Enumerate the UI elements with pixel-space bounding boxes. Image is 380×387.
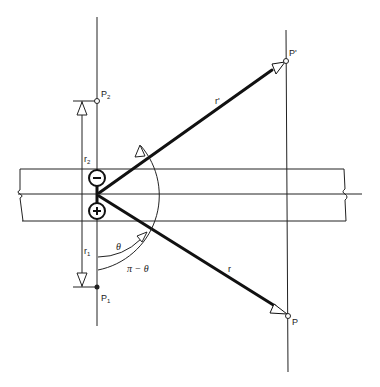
- label-r-prime: r': [215, 96, 220, 106]
- arc-pi-minus-theta: [98, 146, 159, 270]
- point-p2-marker: [95, 99, 100, 104]
- horizontal-band: [18, 169, 362, 221]
- label-p: P: [292, 317, 298, 327]
- dipole-diagram: P2 P1 P' P r' r r2 r1 θ π − θ: [0, 0, 380, 387]
- label-theta: θ: [116, 241, 121, 252]
- point-p-prime-marker: [284, 59, 289, 64]
- vector-r-prime: [99, 70, 272, 193]
- label-r2: r2: [84, 154, 91, 165]
- negative-charge: [89, 170, 105, 186]
- arrowhead-r-prime: [272, 62, 285, 74]
- label-p-prime: P': [289, 48, 297, 58]
- point-p1-marker: [95, 285, 100, 290]
- right-axis: [286, 30, 288, 372]
- point-p-marker: [286, 314, 291, 319]
- label-p1: P1: [101, 293, 111, 304]
- arrowhead-theta: [137, 232, 147, 242]
- label-pi-minus-theta: π − θ: [127, 263, 149, 274]
- label-r1: r1: [84, 246, 91, 257]
- positive-charge: [89, 203, 105, 219]
- label-r: r: [228, 264, 231, 274]
- label-p2: P2: [101, 89, 111, 100]
- arrowhead-pi-minus-theta: [135, 145, 145, 157]
